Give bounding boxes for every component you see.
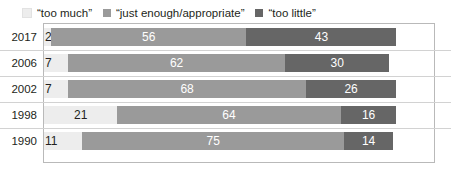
bar-segment-value: 43 [315,28,328,46]
row-category-label: 1990 [0,128,37,154]
row-separator [0,128,451,129]
legend-swatch-icon [255,9,263,17]
row-separator [0,76,451,77]
bar-segment: 68 [68,80,305,98]
bar-segment-value: 68 [180,80,193,98]
bar-segment: 43 [246,28,396,46]
bar-segment: 2 [44,28,51,46]
legend-item-label: “too little” [268,7,315,19]
bar-segment-value: 7 [45,54,52,72]
bar-segment: 56 [51,28,246,46]
row-category-label: 1998 [0,102,37,128]
legend-item-label: “just enough/appropriate” [116,7,245,19]
bar-segment: 14 [344,132,393,150]
bar-segment-value: 26 [344,80,357,98]
chart-legend: “too much”“just enough/appropriate”“too … [22,5,327,20]
bar-segment: 64 [117,106,340,124]
row-category-label: 2017 [0,24,37,50]
legend-item: “too little” [255,7,315,19]
legend-item: “too much” [22,7,92,19]
chart-row: 1990117514 [0,128,451,154]
bar-segment-value: 56 [142,28,155,46]
bar-segment: 75 [82,132,344,150]
bar-segment-value: 62 [170,54,183,72]
legend-item-label: “too much” [37,7,92,19]
chart-row: 200676230 [0,50,451,76]
chart-row: 1998216416 [0,102,451,128]
stacked-bar: 216416 [44,106,396,124]
row-separator [0,50,451,51]
bar-segment-value: 64 [222,106,235,124]
bar-segment: 7 [44,80,68,98]
bar-segment-value: 14 [362,132,375,150]
bar-segment-value: 21 [74,106,87,124]
chart-row: 200276826 [0,76,451,102]
stacked-bar: 76826 [44,80,396,98]
bar-segment-value: 75 [207,132,220,150]
bar-segment-value: 11 [45,132,57,150]
stacked-bar: 76230 [44,54,389,72]
bar-segment: 7 [44,54,68,72]
stacked-bar: 117514 [44,132,393,150]
stacked-bar: 25643 [44,28,396,46]
legend-swatch-icon [22,8,32,18]
legend-item: “just enough/appropriate” [103,7,245,19]
row-category-label: 2002 [0,76,37,102]
bar-segment-value: 7 [45,80,52,98]
row-category-label: 2006 [0,50,37,76]
bar-segment: 62 [68,54,284,72]
bar-segment: 30 [285,54,390,72]
bar-segment: 11 [44,132,82,150]
row-separator [0,102,451,103]
bar-segment: 21 [44,106,117,124]
chart-row: 201725643 [0,24,451,50]
bar-segment-value: 30 [330,54,343,72]
legend-swatch-icon [103,9,111,17]
bar-segment: 26 [306,80,397,98]
bar-segment: 16 [341,106,397,124]
bar-segment-value: 16 [362,106,375,124]
stacked-bar-chart: “too much”“just enough/appropriate”“too … [0,0,451,171]
